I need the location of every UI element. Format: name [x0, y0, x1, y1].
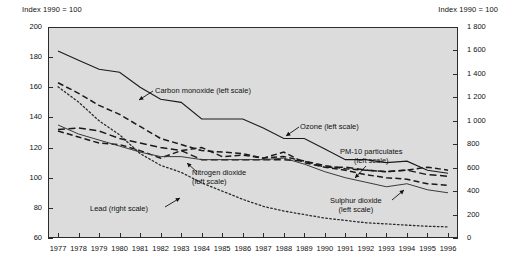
- chart-root: Index 1990 = 100 Index 1990 = 100 608010…: [0, 0, 510, 270]
- annotation-arrowhead: [286, 132, 291, 136]
- annotation-arrows: [0, 0, 510, 270]
